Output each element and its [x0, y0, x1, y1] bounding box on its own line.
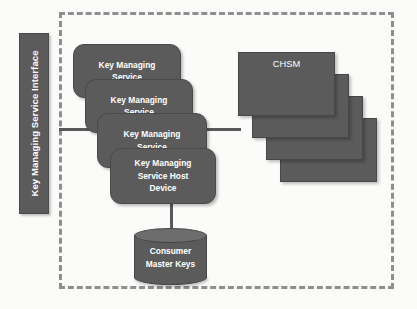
datastore-label: Consumer Master Keys [134, 245, 207, 271]
interface-bar-label: Key Managing Service Interface [29, 50, 40, 196]
connector-service-to-modules [205, 128, 241, 131]
connector-host-device-to-datastore [170, 202, 173, 231]
service-box-key-managing-service-host-device[interactable]: Key Managing Service Host Device [110, 148, 216, 204]
diagram-canvas: Key Managing Service Interface CHSA CHSA… [0, 0, 417, 309]
cylinder-top-ellipse [134, 228, 207, 243]
service-box-label: Key Managing Service Host Device [135, 157, 192, 195]
datastore-consumer-master-keys[interactable]: Consumer Master Keys [134, 228, 207, 285]
module-box-chsm[interactable]: CHSM [238, 52, 335, 116]
key-managing-service-interface-bar[interactable]: Key Managing Service Interface [19, 33, 49, 214]
module-box-label: CHSM [273, 59, 300, 69]
